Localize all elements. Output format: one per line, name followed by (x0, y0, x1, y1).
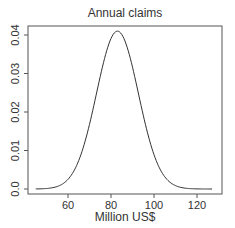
y-tick-label: 0.04 (9, 24, 21, 45)
x-axis-label: Million US$ (95, 210, 156, 224)
x-tick-label: 120 (188, 199, 206, 211)
chart: Annual claims 0.00.010.020.030.04 608010… (0, 0, 235, 228)
plot-frame (28, 26, 222, 194)
y-tick-label: 0.02 (9, 101, 21, 122)
y-tick-label: 0.03 (9, 63, 21, 84)
x-axis: 6080100120 (62, 194, 206, 211)
y-tick-label: 0.0 (9, 181, 21, 196)
y-tick-label: 0.01 (9, 140, 21, 161)
density-curve (36, 31, 212, 189)
y-axis: 0.00.010.020.030.04 (9, 24, 28, 196)
chart-title: Annual claims (88, 6, 163, 20)
x-tick-label: 60 (62, 199, 74, 211)
